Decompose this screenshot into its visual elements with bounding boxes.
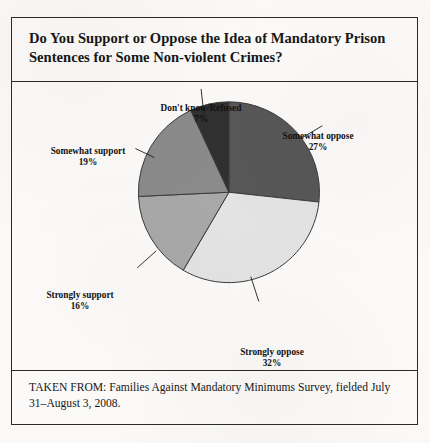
pie-label-somewhat-support: Somewhat support 19% [26,146,150,169]
leader-line-strongly-oppose [251,277,259,302]
pie-label-somewhat-support-name: Somewhat support [51,146,126,156]
pie-label-strongly-oppose-pct: 32% [210,358,334,369]
pie-label-strongly-support-pct: 16% [24,301,136,312]
pie-label-strongly-support-name: Strongly support [46,290,113,300]
figure-title-area: Do You Support or Oppose the Idea of Man… [12,18,417,76]
leader-line-strongly-support [137,251,156,268]
pie-label-dont-know-pct: 7% [137,114,265,125]
figure-container: Do You Support or Oppose the Idea of Man… [11,17,418,425]
pie-label-dont-know-name: Don't know/Refused [161,103,242,113]
pie-label-somewhat-support-pct: 19% [26,157,150,168]
pie-label-dont-know: Don't know/Refused 7% [137,103,265,126]
pie-label-somewhat-oppose-name: Somewhat oppose [282,131,353,141]
pie-label-somewhat-oppose-pct: 27% [258,142,378,153]
pie-slices [138,102,319,283]
pie-label-strongly-support: Strongly support 16% [24,290,136,313]
chart-plot-area: Don't know/Refused 7% Somewhat oppose 27… [12,81,417,371]
source-note: TAKEN FROM: Families Against Mandatory M… [29,380,403,412]
page-title: Do You Support or Oppose the Idea of Man… [29,29,401,67]
figure-source-area: TAKEN FROM: Families Against Mandatory M… [12,371,417,424]
pie-label-strongly-oppose-name: Strongly oppose [240,347,304,357]
pie-label-somewhat-oppose: Somewhat oppose 27% [258,131,378,154]
pie-label-strongly-oppose: Strongly oppose 32% [210,347,334,370]
